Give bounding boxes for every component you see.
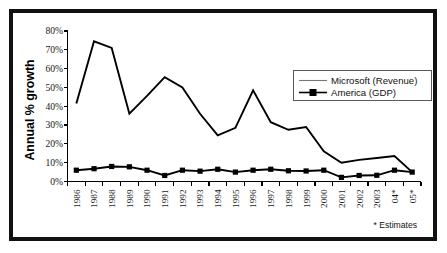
x-tick-label: 1997: [266, 189, 276, 208]
y-tick-label: 40%: [45, 101, 63, 112]
data-point-marker: [180, 168, 185, 173]
data-point-marker: [215, 167, 220, 172]
x-tick-label: 1994: [213, 189, 223, 208]
x-tick-label: 1995: [231, 189, 241, 208]
legend-swatch-america-marker: [310, 89, 317, 96]
data-point-marker: [286, 168, 291, 173]
data-point-marker: [144, 168, 149, 173]
x-tick-label: 1987: [89, 189, 99, 208]
growth-line-chart: Annual % growth 0%10%20%30%40%50%60%70%8…: [0, 0, 447, 253]
data-point-marker: [197, 169, 202, 174]
x-tick-label: 2000: [319, 189, 329, 208]
y-tick-label: 20%: [45, 138, 63, 149]
series-line-america: [76, 166, 412, 177]
data-point-marker: [250, 168, 255, 173]
data-point-marker: [233, 169, 238, 174]
y-tick-label: 60%: [45, 63, 63, 74]
x-tick-label: 1990: [142, 189, 152, 208]
data-point-marker: [162, 173, 167, 178]
x-axis-tick-labels: 1986198719881989199019911992199319941995…: [72, 189, 418, 208]
data-point-marker: [127, 164, 132, 169]
x-tick-label: 1986: [72, 189, 82, 208]
y-tick-label: 10%: [45, 157, 63, 168]
data-point-marker: [392, 168, 397, 173]
y-tick-label: 80%: [45, 25, 63, 36]
chart-plot-wrapper: Annual % growth 0%10%20%30%40%50%60%70%8…: [0, 0, 447, 253]
x-axis-ticks: [68, 182, 422, 187]
data-point-marker: [339, 175, 344, 180]
chart-figure: Annual % growth 0%10%20%30%40%50%60%70%8…: [0, 0, 447, 253]
chart-legend: Microsoft (Revenue) America (GDP): [294, 71, 432, 101]
series-line-microsoft: [76, 41, 412, 172]
data-point-marker: [410, 169, 415, 174]
data-point-marker: [357, 173, 362, 178]
x-tick-label: 2001: [337, 189, 347, 208]
x-tick-label: 1989: [125, 189, 135, 208]
data-point-marker: [74, 168, 79, 173]
x-tick-label: 05*: [408, 189, 418, 203]
x-tick-label: 1992: [178, 189, 188, 208]
x-tick-label: 04*: [390, 189, 400, 203]
data-point-marker: [91, 166, 96, 171]
y-tick-label: 50%: [45, 82, 63, 93]
y-axis-title: Annual % growth: [23, 59, 37, 160]
x-tick-label: 1991: [160, 189, 170, 208]
data-point-marker: [268, 167, 273, 172]
x-tick-label: 1999: [302, 189, 312, 208]
data-point-marker: [321, 168, 326, 173]
x-tick-label: 1996: [248, 189, 258, 208]
legend-label-microsoft: Microsoft (Revenue): [331, 75, 417, 86]
y-tick-label: 0%: [50, 176, 63, 187]
x-tick-label: 2002: [355, 189, 365, 208]
estimates-note: * Estimates: [374, 220, 417, 230]
data-point-marker: [304, 168, 309, 173]
x-tick-label: 1988: [107, 189, 117, 208]
x-tick-label: 1998: [284, 189, 294, 208]
y-axis-tick-labels: 0%10%20%30%40%50%60%70%80%: [45, 25, 63, 187]
legend-label-america: America (GDP): [331, 87, 396, 98]
x-tick-label: 1993: [195, 189, 205, 208]
y-tick-label: 30%: [45, 119, 63, 130]
data-point-marker: [109, 164, 114, 169]
data-point-marker: [374, 173, 379, 178]
y-tick-label: 70%: [45, 44, 63, 55]
x-tick-label: 2003: [372, 189, 382, 208]
